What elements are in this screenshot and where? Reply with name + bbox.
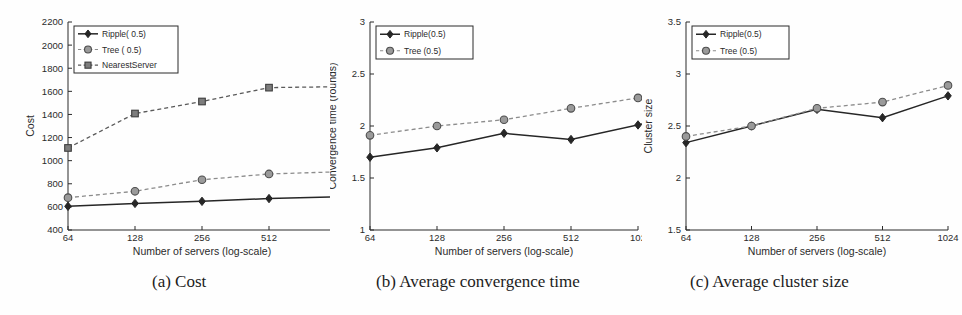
legend: Ripple( 0.5)Tree ( 0.5)NearestServer	[74, 26, 178, 73]
data-point-marker	[65, 145, 72, 152]
y-axis-label: Convergence time (rounds)	[330, 62, 338, 189]
data-point-marker	[199, 197, 206, 205]
x-tick-label: 64	[365, 232, 376, 243]
caption-row: (a) Cost (b) Average convergence time (c…	[0, 268, 962, 315]
y-tick-label: 1200	[42, 132, 63, 143]
legend-label: Tree (0.5)	[720, 46, 757, 56]
y-tick-label: 2200	[42, 16, 63, 27]
data-point-marker	[198, 176, 206, 184]
y-tick-label: 1.5	[668, 224, 681, 235]
data-point-marker	[266, 84, 273, 91]
x-tick-label: 256	[809, 232, 825, 243]
chart-panel-convergence-time: 11.522.5364128256512102Number of servers…	[330, 0, 642, 268]
data-point-marker	[879, 113, 886, 121]
chart-panel-cluster-size: 1.522.533.5641282565121024Number of serv…	[642, 0, 962, 268]
y-tick-label: 2	[676, 172, 681, 183]
series-nearestserver	[65, 84, 330, 151]
y-tick-label: 1400	[42, 109, 63, 120]
legend-label: NearestServer	[102, 60, 157, 70]
data-point-marker	[366, 132, 374, 140]
data-point-marker	[132, 199, 139, 207]
y-tick-label: 1000	[42, 155, 63, 166]
series-line	[686, 96, 948, 143]
y-tick-label: 1.5	[352, 172, 365, 183]
chart-b: 11.522.5364128256512102Number of servers…	[330, 0, 642, 268]
y-tick-label: 2	[360, 120, 365, 131]
caption-b: (b) Average convergence time	[376, 272, 580, 292]
x-tick-label: 512	[563, 232, 579, 243]
x-tick-label: 512	[261, 232, 277, 243]
y-tick-label: 3	[676, 68, 681, 79]
legend: Ripple(0.5)Tree (0.5)	[692, 26, 789, 59]
data-point-marker	[635, 121, 642, 129]
data-point-marker	[131, 187, 139, 195]
y-tick-label: 3	[360, 16, 365, 27]
y-tick-label: 3.5	[668, 16, 681, 27]
y-tick-label: 400	[47, 224, 63, 235]
legend-label: Ripple( 0.5)	[102, 29, 146, 39]
y-tick-label: 2.5	[668, 120, 681, 131]
x-tick-label: 64	[681, 232, 692, 243]
chart-panel-cost: 4006008001000120014001600180020002200641…	[0, 0, 330, 268]
data-point-marker	[813, 105, 821, 113]
legend-sample-marker	[387, 47, 394, 54]
figure-container: 4006008001000120014001600180020002200641…	[0, 0, 962, 315]
legend-label: Ripple(0.5)	[404, 29, 446, 39]
data-point-marker	[434, 144, 441, 152]
data-point-marker	[634, 94, 642, 102]
data-point-marker	[500, 116, 508, 124]
x-tick-label: 1024	[937, 232, 958, 243]
series-tree-0-5	[682, 82, 952, 141]
legend-label: Tree ( 0.5)	[102, 45, 142, 55]
x-axis-label: Number of servers (log-scale)	[748, 245, 886, 257]
x-tick-label: 256	[194, 232, 210, 243]
caption-a: (a) Cost	[152, 272, 206, 292]
y-tick-label: 600	[47, 201, 63, 212]
legend-label: Tree (0.5)	[404, 46, 441, 56]
legend: Ripple(0.5)Tree (0.5)	[376, 26, 473, 59]
data-point-marker	[748, 122, 756, 130]
data-point-marker	[367, 153, 374, 161]
x-axis-ticks: 641282565121024	[681, 226, 959, 243]
series-tree-0-5	[64, 170, 330, 201]
series-line	[68, 87, 330, 148]
data-point-marker	[567, 105, 575, 113]
data-point-marker	[266, 194, 273, 202]
x-tick-label: 102	[630, 232, 642, 243]
x-tick-label: 128	[744, 232, 760, 243]
legend-sample-marker	[85, 46, 92, 53]
x-tick-label: 256	[496, 232, 512, 243]
data-point-marker	[132, 110, 139, 117]
x-axis-ticks: 64128256512102	[365, 226, 642, 243]
data-point-marker	[199, 98, 206, 105]
y-tick-label: 800	[47, 178, 63, 189]
caption-c: (c) Average cluster size	[690, 272, 849, 292]
x-tick-label: 128	[127, 232, 143, 243]
x-axis-ticks: 6412825651210	[63, 226, 330, 243]
y-axis-label: Cluster size	[642, 98, 654, 153]
chart-c: 1.522.533.5641282565121024Number of serv…	[642, 0, 962, 268]
data-point-marker	[682, 133, 690, 141]
data-point-marker	[879, 98, 887, 106]
x-tick-label: 64	[63, 232, 74, 243]
x-axis-label: Number of servers (log-scale)	[435, 245, 573, 257]
y-axis-ticks: 11.522.53	[352, 16, 374, 235]
y-tick-label: 1600	[42, 86, 63, 97]
chart-a: 4006008001000120014001600180020002200641…	[0, 0, 330, 268]
series-ripple-0-5	[65, 194, 330, 210]
series-line	[68, 172, 330, 198]
x-tick-label: 512	[875, 232, 891, 243]
legend-sample-marker	[85, 62, 91, 68]
data-point-marker	[944, 82, 952, 90]
series-ripple-0-5	[683, 92, 952, 147]
x-tick-label: 128	[429, 232, 445, 243]
series-ripple-0-5	[367, 121, 642, 162]
data-point-marker	[501, 129, 508, 137]
data-point-marker	[265, 170, 273, 178]
legend-sample-marker	[703, 47, 710, 54]
y-tick-label: 2.5	[352, 68, 365, 79]
y-tick-label: 1800	[42, 63, 63, 74]
data-point-marker	[945, 92, 952, 100]
series-line	[370, 123, 642, 157]
y-tick-label: 2000	[42, 40, 63, 51]
